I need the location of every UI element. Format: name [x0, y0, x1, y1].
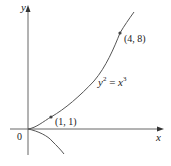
point-1-1-label: (1, 1) — [55, 116, 77, 128]
curve-lower-branch — [28, 129, 64, 154]
equation-label: y2 = x3 — [97, 75, 127, 88]
semicubical-parabola-figure: y x 0 (1, 1) (4, 8) y2 = x3 — [0, 0, 171, 166]
y-axis-arrow-icon — [26, 5, 31, 12]
point-1-1-marker — [49, 115, 52, 118]
point-4-8-label: (4, 8) — [124, 33, 146, 45]
origin-label: 0 — [17, 131, 22, 142]
x-axis-label: x — [155, 131, 161, 143]
curve-upper-branch — [28, 12, 134, 129]
plot-canvas: y x 0 (1, 1) (4, 8) y2 = x3 — [0, 0, 171, 166]
y-axis-label: y — [20, 1, 26, 13]
point-4-8-marker — [118, 31, 121, 34]
